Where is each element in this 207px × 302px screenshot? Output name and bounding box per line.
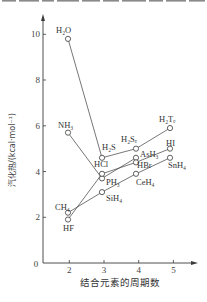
point-label: NH₃ — [58, 120, 73, 130]
point-label: PH₃ — [106, 177, 120, 187]
point-label: HCl — [94, 159, 109, 169]
x-tick-label: 2 — [67, 265, 72, 275]
origin-label: 0 — [34, 259, 39, 269]
y-tick-label: 6 — [36, 121, 41, 131]
y-tick-label: 8 — [36, 75, 41, 85]
x-tick-label: 5 — [171, 265, 176, 275]
x-axis-arrow-icon — [191, 261, 198, 265]
x-ticks: 2 3 4 5 — [67, 260, 176, 275]
y-axis-arrow-icon — [41, 14, 45, 21]
point-label: H₂Tₑ — [159, 114, 176, 124]
data-point-marker — [65, 36, 70, 41]
data-point-marker — [133, 171, 138, 176]
y-tick-label: 2 — [36, 212, 41, 222]
cropped-text-fragment — [2, 0, 205, 2]
point-label: CH₄ — [55, 202, 70, 212]
point-label: SiH₄ — [106, 193, 122, 203]
point-label: HI — [166, 138, 175, 148]
chart-canvas: 0 2 4 6 8 10 2 3 4 5 结合元素的周期数 汽化热/(kcal·… — [0, 0, 207, 302]
point-label: SnH₄ — [168, 160, 186, 170]
point-label: HF — [63, 223, 74, 233]
point-labels: CH₄ SiH₄ CeH₄ SnH₄ NH₃ PH₃ AsH₃ H₂O H₂S … — [55, 25, 186, 233]
y-tick-label: 4 — [36, 167, 41, 177]
point-label: AsH₃ — [140, 149, 159, 159]
data-point-marker — [65, 217, 70, 222]
y-axis-title: 汽化热/(kcal·mol⁻¹) — [7, 113, 17, 187]
point-label: H₂S — [102, 142, 116, 152]
data-point-marker — [65, 130, 70, 135]
point-label: H₂O — [56, 25, 71, 35]
data-point-marker — [167, 125, 172, 130]
data-point-marker — [99, 190, 104, 195]
x-tick-label: 4 — [136, 265, 141, 275]
data-point-marker — [133, 146, 138, 151]
point-label: HBr — [137, 160, 152, 170]
x-tick-label: 3 — [102, 265, 107, 275]
series-line — [68, 39, 170, 158]
point-label: H₂Sₑ — [121, 134, 138, 144]
chart-figure: 0 2 4 6 8 10 2 3 4 5 结合元素的周期数 汽化热/(kcal·… — [0, 0, 207, 302]
y-tick-label: 10 — [31, 29, 41, 39]
y-ticks: 2 4 6 8 10 — [31, 29, 46, 222]
point-label: CeH₄ — [136, 177, 155, 187]
x-axis-title: 结合元素的周期数 — [80, 277, 160, 288]
data-point-marker — [99, 171, 104, 176]
